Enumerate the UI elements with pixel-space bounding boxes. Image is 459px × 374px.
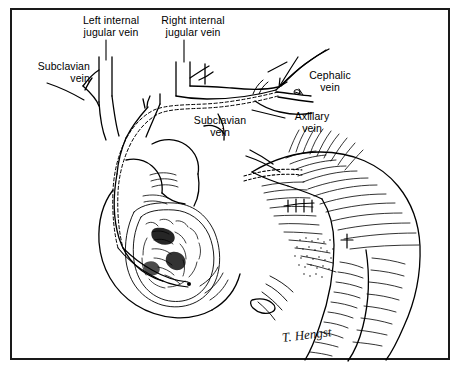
label-subclavian-vein-left: Subclavian vein	[12, 60, 90, 84]
illustration-figure: Subclavian vein Left internal jugular ve…	[0, 0, 459, 374]
label-cephalic-vein: Cephalic vein	[300, 69, 360, 93]
label-left-internal-jugular-vein: Left internal jugular vein	[72, 14, 150, 38]
label-axillary-vein: Axillary vein	[284, 110, 340, 134]
label-right-internal-jugular-vein: Right internal jugular vein	[153, 14, 233, 38]
label-subclavian-vein-middle: Subclavian vein	[186, 114, 254, 138]
